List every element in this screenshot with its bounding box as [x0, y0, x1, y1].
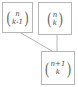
- binom-top: n: [53, 11, 58, 19]
- edge-diagonal: [21, 33, 52, 51]
- left-paren: (: [6, 9, 11, 27]
- binom-top: n+1: [51, 60, 66, 68]
- binom-bottom: k-1: [12, 18, 23, 26]
- diagram-canvas: ( n k-1 ) ( n k ) ( n+1 k ): [0, 0, 78, 87]
- binom-stack: n k: [53, 11, 58, 27]
- binom-bottom: k: [56, 68, 60, 76]
- left-paren: (: [45, 59, 50, 77]
- binomial-coefficient: ( n k ): [47, 11, 64, 27]
- binom-top: n: [15, 10, 20, 18]
- binomial-coefficient: ( n k-1 ): [6, 10, 29, 26]
- binom-bottom: k: [53, 19, 57, 27]
- right-paren: ): [24, 9, 29, 27]
- right-paren: ): [58, 10, 63, 28]
- binomial-coefficient: ( n+1 k ): [45, 60, 72, 76]
- binom-stack: n k-1: [12, 10, 23, 26]
- node-binom-n-k-minus-1: ( n k-1 ): [2, 2, 33, 33]
- right-paren: ): [66, 59, 71, 77]
- left-paren: (: [47, 10, 52, 28]
- node-binom-n-plus-1-k: ( n+1 k ): [41, 51, 75, 85]
- node-binom-n-k: ( n k ): [38, 2, 72, 35]
- binom-stack: n+1 k: [51, 60, 66, 76]
